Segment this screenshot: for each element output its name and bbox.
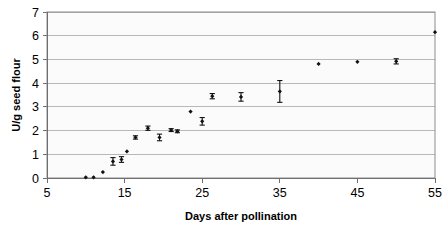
x-tick-label: 25: [195, 186, 209, 200]
x-tick-label: 55: [428, 186, 442, 200]
y-tick-label: 3: [32, 100, 39, 114]
y-tick-label: 1: [32, 148, 39, 162]
x-axis-title: Days after pollination: [185, 210, 297, 222]
x-tick-label: 5: [44, 186, 51, 200]
x-tick-label: 35: [273, 186, 287, 200]
chart-figure: 01234567 51525354555 U/g seed flour Days…: [0, 0, 448, 235]
y-axis-title: U/g seed flour: [10, 58, 22, 132]
x-tick-label: 15: [118, 186, 132, 200]
x-tick-label: 45: [350, 186, 364, 200]
y-tick-label: 5: [32, 53, 39, 67]
y-tick-label: 7: [32, 6, 39, 20]
y-tick-label: 4: [32, 77, 39, 91]
y-tick-label: 2: [32, 124, 39, 138]
y-tick-label: 6: [32, 29, 39, 43]
scatter-plot: 01234567 51525354555 U/g seed flour Days…: [0, 0, 448, 235]
y-tick-label: 0: [32, 172, 39, 186]
